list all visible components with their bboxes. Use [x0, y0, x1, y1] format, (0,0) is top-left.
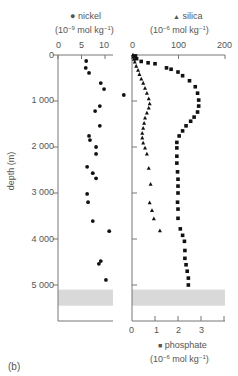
silica-point: [145, 91, 149, 95]
triangle-marker-icon: ▲: [173, 13, 180, 20]
unit-exponent: −1: [199, 354, 206, 360]
silica-point: [148, 200, 152, 204]
depth-tick-0: 0: [49, 50, 54, 60]
phosphate-point: [192, 115, 196, 119]
silica-point: [137, 72, 141, 76]
depth-tick-5000: 5 000: [31, 280, 54, 290]
phosphate-point: [183, 257, 187, 261]
silica-point: [136, 68, 140, 72]
silica-point: [134, 64, 138, 68]
phosphate-point: [176, 191, 180, 195]
phosphate-point: [135, 57, 139, 61]
phosphate-point: [196, 110, 200, 114]
phosphate-point: [187, 276, 191, 280]
phosphate-point: [175, 154, 179, 158]
phosphate-point: [176, 200, 180, 204]
phosphate-point: [197, 104, 201, 108]
nickel-point: [98, 104, 102, 108]
silica-point: [143, 146, 147, 150]
silica-point: [147, 166, 151, 170]
nickel-point: [107, 229, 111, 233]
phosphate-tick-1: 1: [154, 325, 159, 335]
phosphate-point: [181, 74, 185, 78]
phosphate-point: [176, 184, 180, 188]
nickel-legend: ● nickel: [70, 11, 101, 21]
silica-point: [147, 97, 151, 101]
depth-tick-4000: 4 000: [31, 234, 54, 244]
phosphate-point: [183, 240, 187, 244]
phosphate-point: [184, 263, 188, 267]
silica-tick-0: 0: [130, 40, 135, 50]
phosphate-point: [187, 283, 191, 287]
phosphate-point: [176, 217, 180, 221]
phosphate-point: [185, 269, 189, 273]
nickel-legend-label: nickel: [78, 11, 101, 21]
silica-point: [142, 121, 146, 125]
phosphate-point: [188, 79, 192, 83]
silica-point: [141, 141, 145, 145]
phosphate-point: [181, 129, 185, 133]
silica-point: [143, 86, 147, 90]
silica-point: [140, 136, 144, 140]
phosphate-point: [175, 141, 179, 145]
figure-label: (b): [8, 362, 20, 372]
phosphate-tick-2: 2: [176, 325, 181, 335]
nickel-point: [94, 145, 98, 149]
unit-exponent: −6: [163, 354, 170, 360]
silica-point: [141, 81, 145, 85]
unit-text: ): [206, 354, 209, 364]
phosphate-point: [177, 134, 181, 138]
nickel-point: [91, 171, 95, 175]
phosphate-point: [175, 161, 179, 165]
phosphate-point: [176, 70, 180, 74]
nickel-unit: (10−9 mol kg−1): [55, 25, 114, 35]
phosphate-point: [181, 234, 185, 238]
depth-tick-3000: 3 000: [31, 187, 54, 197]
phosphate-point: [139, 60, 143, 64]
nickel-point: [104, 278, 108, 282]
nickel-point: [91, 219, 95, 223]
nickel-point: [87, 71, 91, 75]
silica-tick-200: 200: [217, 40, 232, 50]
nickel-point: [102, 87, 106, 91]
silica-point: [149, 182, 153, 186]
nickel-point: [84, 66, 88, 70]
unit-text: mol kg: [170, 25, 199, 35]
unit-text: mol kg: [170, 354, 199, 364]
silica-tick-100: 100: [171, 40, 186, 50]
phosphate-legend: ■ phosphate: [158, 340, 207, 351]
unit-exponent: −1: [199, 25, 206, 31]
nickel-tick-10: 10: [99, 40, 109, 50]
circle-marker-icon: ●: [70, 11, 75, 21]
nickel-point: [122, 93, 126, 97]
silica-unit: (10−6 mol kg−1): [150, 25, 209, 35]
phosphate-point: [153, 62, 157, 66]
unit-exponent: −1: [104, 25, 111, 31]
nickel-point: [98, 124, 102, 128]
phosphate-point: [193, 85, 197, 89]
nickel-tick-0: 0: [56, 40, 61, 50]
phosphate-point: [189, 119, 193, 123]
silica-point: [145, 152, 149, 156]
nickel-point: [97, 262, 101, 266]
silica-point: [158, 229, 162, 233]
unit-text: ): [111, 25, 114, 35]
square-marker-icon: ■: [158, 342, 162, 349]
unit-text: (10: [150, 354, 163, 364]
silica-point: [143, 116, 147, 120]
phosphate-point: [183, 249, 187, 253]
phosphate-point: [179, 227, 183, 231]
nickel-point: [94, 176, 98, 180]
depth-tick-1000: 1 000: [31, 95, 54, 105]
seafloor-band-right: [132, 290, 225, 306]
unit-text: ): [206, 25, 209, 35]
nickel-tick-5: 5: [79, 40, 84, 50]
unit-text: (10: [150, 25, 163, 35]
phosphate-tick-0: 0: [129, 325, 134, 335]
depth-axis-label: depth (m): [6, 152, 16, 191]
silica-point: [150, 208, 154, 212]
silica-point: [147, 106, 151, 110]
silica-legend: ▲ silica: [173, 11, 202, 22]
nickel-point: [87, 134, 91, 138]
nickel-point: [94, 152, 98, 156]
